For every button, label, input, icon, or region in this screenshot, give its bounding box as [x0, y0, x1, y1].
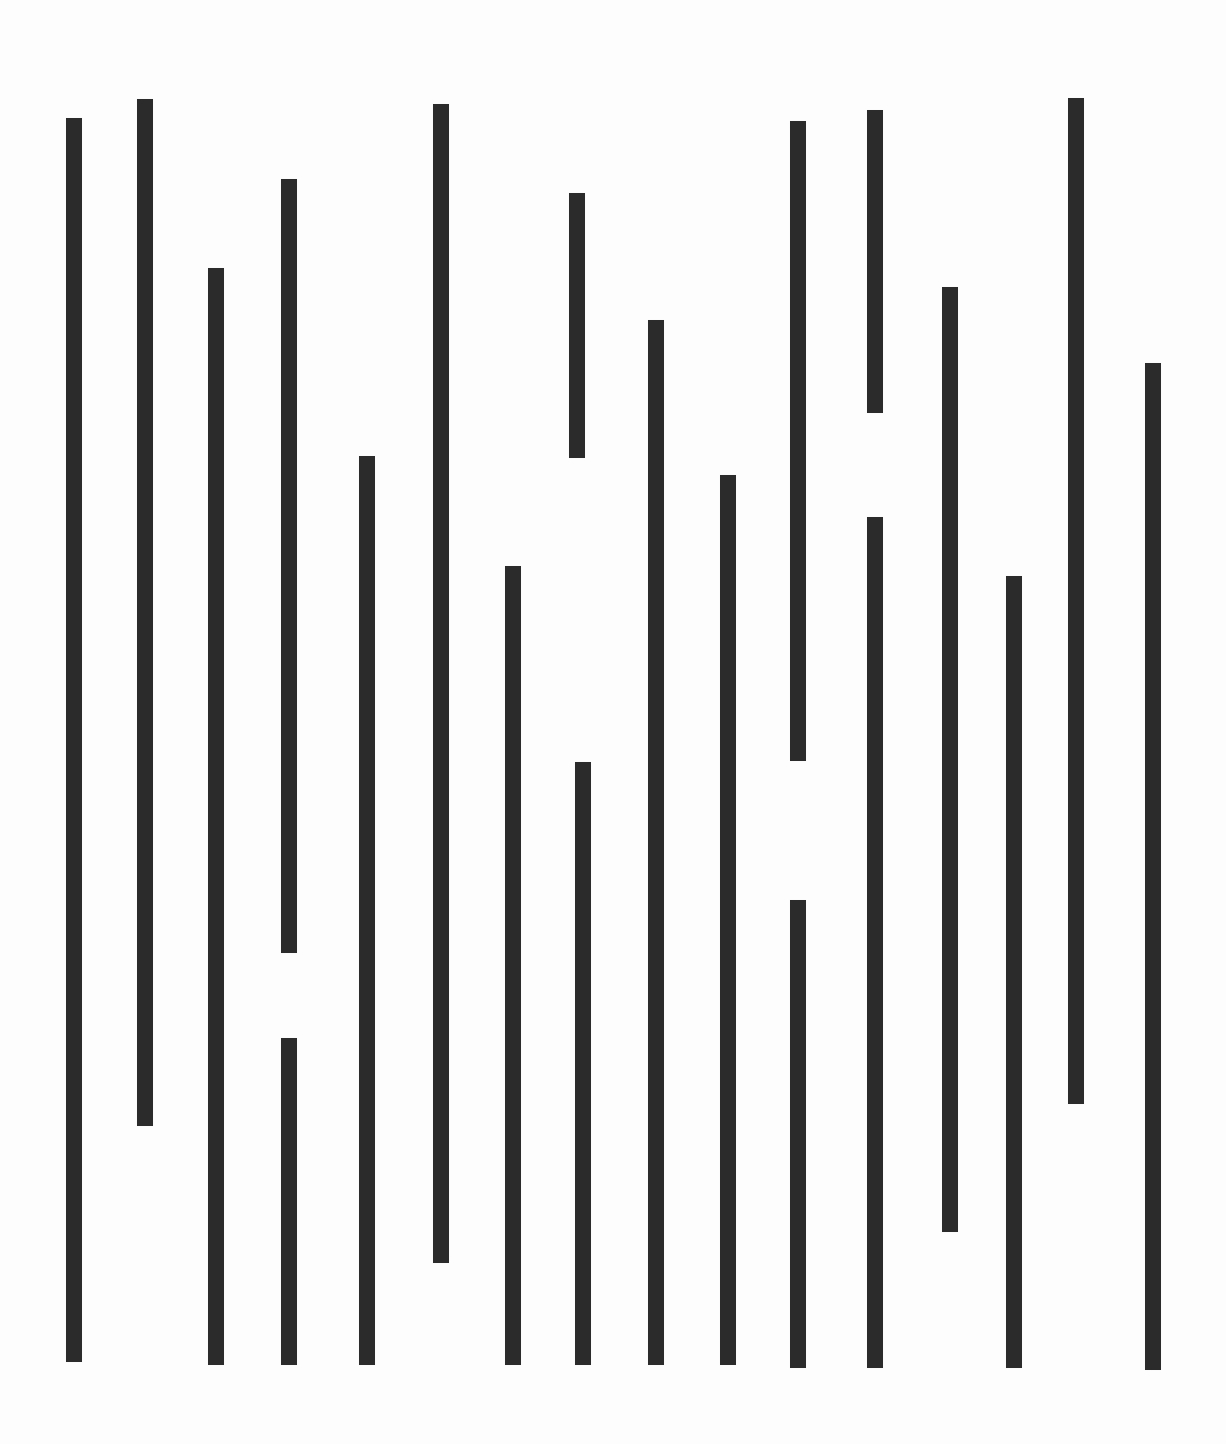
bar-pattern-canvas: [0, 0, 1226, 1444]
bar-segment: [505, 566, 521, 1365]
bar-segment: [359, 456, 375, 1365]
bar-segment: [790, 121, 806, 761]
bar-segment: [433, 104, 449, 1263]
bar-segment: [720, 475, 736, 1365]
bar-segment: [1145, 363, 1161, 1370]
bar-segment: [569, 193, 585, 458]
bar-segment: [867, 110, 883, 413]
bar-segment: [208, 268, 224, 1365]
bar-segment: [1006, 576, 1022, 1368]
bar-segment: [942, 287, 958, 1232]
bar-segment: [281, 179, 297, 953]
bar-segment: [790, 900, 806, 1368]
bar-segment: [575, 762, 591, 1365]
bar-segment: [281, 1038, 297, 1365]
bar-segment: [867, 517, 883, 1368]
bar-segment: [1068, 98, 1084, 1104]
bar-segment: [137, 99, 153, 1126]
bar-segment: [648, 320, 664, 1365]
bar-segment: [66, 118, 82, 1362]
